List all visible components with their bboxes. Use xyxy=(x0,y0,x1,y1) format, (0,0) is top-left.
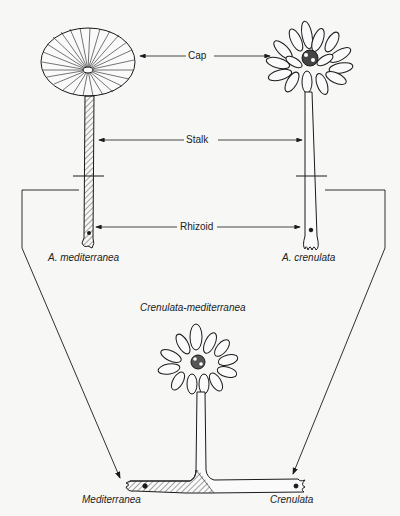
label-stalk: Stalk xyxy=(184,134,210,146)
mediterranea-stalk xyxy=(73,96,104,248)
crenulata-stalk xyxy=(296,92,327,250)
mediterranea-cap xyxy=(41,28,135,96)
crenulata-cap xyxy=(265,20,354,96)
label-species-left: A. mediterranea xyxy=(48,252,119,264)
hybrid-stalk-base xyxy=(126,392,305,493)
label-cap: Cap xyxy=(186,50,208,62)
label-bottom-right: Crenulata xyxy=(270,494,313,506)
hybrid-cap xyxy=(157,324,239,394)
label-species-right: A. crenulata xyxy=(282,252,335,264)
label-bottom-left: Mediterranea xyxy=(82,494,141,506)
label-rhizoid: Rhizoid xyxy=(178,221,215,233)
label-hybrid: Crenulata-mediterranea xyxy=(140,302,246,314)
acetabularia-grafting-diagram: Cap Stalk Rhizoid A. mediterranea A. cre… xyxy=(0,0,400,516)
